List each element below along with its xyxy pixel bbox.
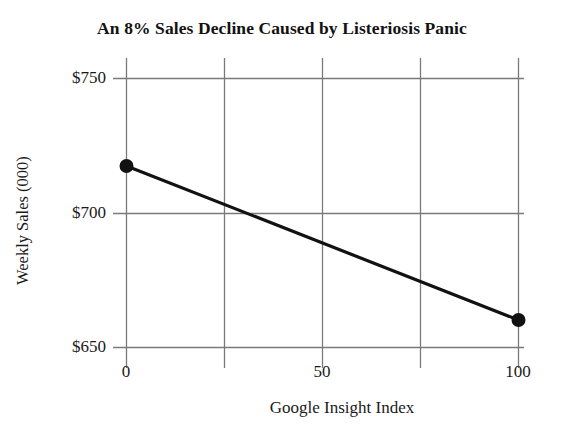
ytick-label-750: $750 [48,68,106,88]
x-axis-title: Google Insight Index [0,398,564,418]
data-point-marker-0 [120,159,134,173]
xtick-label-100: 100 [505,362,531,382]
horizontal-gridlines [113,79,524,348]
chart-figure: An 8% Sales Decline Caused by Listeriosi… [0,0,564,436]
ytick-label-700: $700 [48,203,106,223]
ytick-label-650: $650 [48,337,106,357]
xtick-label-0: 0 [122,362,131,382]
xtick-label-50: 50 [314,362,331,382]
y-axis-title: Weekly Sales (000) [13,156,33,285]
data-point-marker-100 [512,313,526,327]
